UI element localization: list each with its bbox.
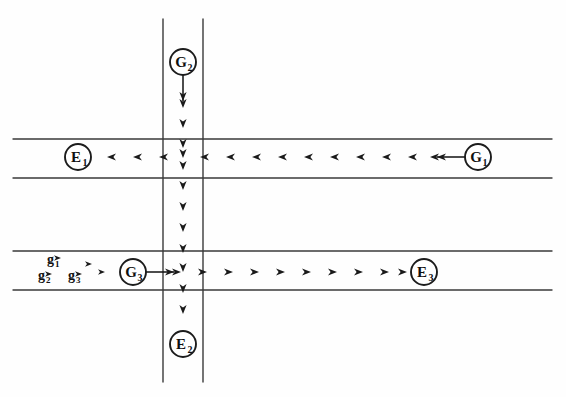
gas-letter-g3: g bbox=[68, 268, 75, 283]
gas-letter-g2: g bbox=[38, 268, 45, 283]
gas-label-g1: g1 bbox=[47, 252, 60, 270]
flow-arrowhead-left bbox=[200, 153, 209, 160]
node-letter-g2: G bbox=[175, 54, 187, 70]
flow-arrowhead-down bbox=[179, 202, 186, 211]
flow-arrowhead-left bbox=[408, 153, 417, 160]
gas-subscript-g2: 2 bbox=[46, 275, 51, 285]
flow-arrowhead-left bbox=[252, 153, 261, 160]
node-subscript-e3: 3 bbox=[429, 272, 434, 283]
flow-arrowhead-right bbox=[250, 268, 259, 275]
gas-flow-tick-g-extra-2 bbox=[98, 269, 105, 275]
flow-arrowhead-left bbox=[226, 153, 235, 160]
node-letter-g1: G bbox=[470, 149, 482, 165]
source-stems bbox=[146, 75, 465, 276]
node-subscript-g3: 3 bbox=[138, 272, 143, 283]
flow-arrowhead-down bbox=[179, 305, 186, 314]
gas-subscript-g3: 3 bbox=[76, 275, 81, 285]
flow-arrowhead-left bbox=[133, 153, 142, 160]
gas-label-g2: g2 bbox=[38, 268, 51, 286]
flow-arrowhead-down bbox=[179, 161, 186, 170]
flow-arrowheads bbox=[107, 99, 439, 314]
flow-arrowhead-left bbox=[382, 153, 391, 160]
flow-arrowhead-down bbox=[179, 139, 186, 148]
gas-flow-tick-g-extra-1 bbox=[85, 261, 92, 267]
flow-arrowhead-left bbox=[278, 153, 287, 160]
node-subscript-g1: 1 bbox=[483, 157, 488, 168]
node-letter-e1: E bbox=[71, 149, 81, 165]
node-e1[interactable]: E1 bbox=[65, 144, 91, 170]
gas-label-g3: g3 bbox=[68, 268, 81, 286]
flow-arrowhead-right bbox=[224, 268, 233, 275]
flow-arrowhead-right bbox=[380, 268, 389, 275]
gas-letter-g1: g bbox=[47, 252, 54, 267]
flow-arrowhead-left bbox=[107, 153, 116, 160]
node-e3[interactable]: E3 bbox=[411, 259, 437, 285]
flow-arrowhead-down bbox=[179, 149, 186, 158]
node-g3[interactable]: G3 bbox=[120, 259, 146, 285]
corridor-lines bbox=[13, 19, 552, 382]
gas-species-labels: g1g2g3 bbox=[38, 252, 105, 286]
flow-arrowhead-down bbox=[179, 119, 186, 128]
flow-arrowhead-left bbox=[330, 153, 339, 160]
flow-arrowhead-right bbox=[276, 268, 285, 275]
node-markers: G2G1G3E1E2E3 bbox=[65, 49, 491, 357]
node-letter-e3: E bbox=[417, 264, 427, 280]
gas-subscript-g1: 1 bbox=[55, 259, 60, 269]
node-subscript-g2: 2 bbox=[188, 62, 193, 73]
node-subscript-e1: 1 bbox=[83, 157, 88, 168]
flow-diagram: g1g2g3 G2G1G3E1E2E3 bbox=[0, 0, 566, 397]
flow-arrowhead-down bbox=[179, 263, 186, 272]
node-g1[interactable]: G1 bbox=[465, 144, 491, 170]
flow-arrowhead-down bbox=[179, 284, 186, 293]
flow-arrowhead-right bbox=[328, 268, 337, 275]
flow-arrowhead-right bbox=[354, 268, 363, 275]
flow-arrowhead-right bbox=[398, 268, 407, 275]
node-e2[interactable]: E2 bbox=[170, 331, 196, 357]
node-letter-g3: G bbox=[125, 264, 137, 280]
node-subscript-e2: 2 bbox=[188, 344, 193, 355]
flow-arrowhead-down bbox=[179, 223, 186, 232]
flow-arrowhead-right bbox=[302, 268, 311, 275]
node-g2[interactable]: G2 bbox=[170, 49, 196, 75]
node-letter-e2: E bbox=[176, 336, 186, 352]
flow-arrowhead-left bbox=[304, 153, 313, 160]
flow-arrowhead-down bbox=[179, 181, 186, 190]
figure-canvas: g1g2g3 G2G1G3E1E2E3 bbox=[0, 0, 566, 397]
flow-arrowhead-left bbox=[356, 153, 365, 160]
